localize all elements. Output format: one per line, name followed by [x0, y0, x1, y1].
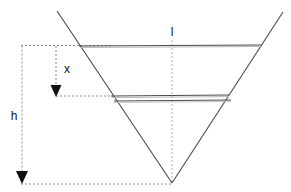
inner-surface-line-upper	[111, 95, 229, 96]
partial-depth-label: x	[64, 62, 70, 76]
surface-lines	[79, 45, 262, 103]
top-width-line-highlight	[80, 47, 261, 48]
inner-surface-line-upper-highlight	[112, 97, 229, 98]
channel-right-wall	[172, 12, 283, 183]
total-depth-label: h	[11, 109, 18, 123]
top-width-label: l	[171, 25, 174, 39]
x-arrowhead-icon	[51, 85, 62, 97]
dimension-labels: l x h	[11, 25, 174, 123]
dimension-arrowheads	[16, 85, 62, 184]
inner-surface-line-lower	[114, 100, 231, 101]
h-arrowhead-icon	[16, 171, 28, 184]
diagram-canvas: l x h	[0, 0, 291, 192]
inner-surface-line-lower-highlight	[114, 102, 231, 103]
vee-channel-diagram: l x h	[0, 0, 291, 192]
dimension-guide-lines	[21, 40, 173, 184]
